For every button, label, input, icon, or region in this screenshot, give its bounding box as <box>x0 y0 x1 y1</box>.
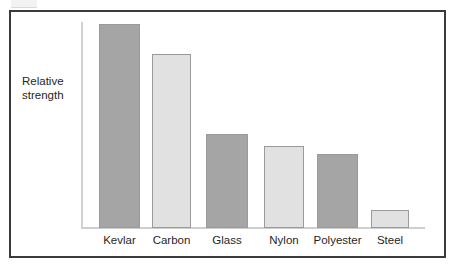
bar-nylon <box>264 146 304 228</box>
bar-kevlar <box>99 24 140 228</box>
bar-carbon <box>152 54 191 228</box>
y-axis-line <box>81 22 83 228</box>
x-axis-label-steel: Steel <box>350 234 430 247</box>
bar-chart-plot-area: Relative strength KevlarCarbonGlassNylon… <box>0 0 455 268</box>
bar-glass <box>206 134 248 228</box>
y-axis-label: Relative strength <box>22 75 80 102</box>
chart-screenshot: Relative strength KevlarCarbonGlassNylon… <box>0 0 455 268</box>
bar-steel <box>371 210 409 228</box>
bar-polyester <box>317 154 358 228</box>
